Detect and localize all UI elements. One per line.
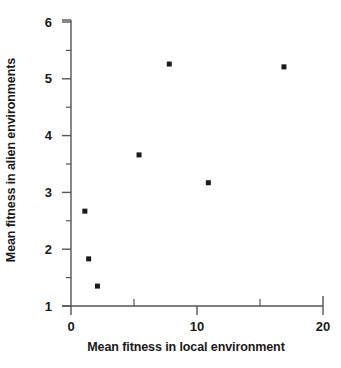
- data-point: [82, 209, 87, 214]
- x-axis-title: Mean fitness in local environment: [36, 340, 336, 354]
- data-point: [206, 180, 211, 185]
- data-point: [86, 256, 91, 261]
- data-point: [281, 64, 286, 69]
- y-tick-label: 5: [45, 71, 52, 86]
- y-tick-label: 3: [45, 185, 52, 200]
- plot-area: 123456 01020: [0, 0, 341, 368]
- data-point: [167, 62, 172, 67]
- y-tick-label: 2: [45, 242, 52, 257]
- y-axis-minor-ticks: [66, 50, 71, 277]
- scatter-plot-figure: Mean fitness in alien environments 12345…: [0, 0, 341, 368]
- data-point: [95, 284, 100, 289]
- x-tick-label: 20: [316, 319, 330, 334]
- x-tick-label: 10: [190, 319, 204, 334]
- y-tick-label: 1: [45, 299, 52, 314]
- x-axis-minor-ticks: [134, 299, 260, 306]
- y-tick-label: 4: [45, 128, 53, 143]
- x-tick-label: 0: [67, 319, 74, 334]
- data-point-group: [82, 62, 286, 289]
- x-axis-ticks: 01020: [67, 306, 330, 334]
- y-tick-label: 6: [45, 15, 52, 30]
- data-point: [137, 152, 142, 157]
